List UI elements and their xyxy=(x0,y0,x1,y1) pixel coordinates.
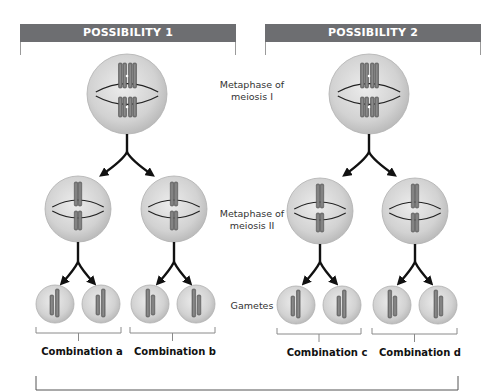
cell-membrane xyxy=(87,54,167,134)
arrow-branch-right xyxy=(320,262,335,282)
brackets-layer xyxy=(36,327,458,390)
diagram-canvas xyxy=(0,0,499,391)
gamete-c2 xyxy=(323,286,361,324)
metaphase-meiosis-2-line1: Metaphase of xyxy=(212,208,292,220)
combination-a-bracket xyxy=(36,327,121,341)
possibility-2-metaphase-2-cell-left xyxy=(287,178,353,244)
centromere xyxy=(368,75,371,78)
possibility-1-right-meiosis-2-arrow xyxy=(159,242,189,282)
arrow-branch-right xyxy=(78,262,93,282)
possibility-2-metaphase-2-cell-right xyxy=(382,178,448,244)
possibility-2-header-right-tick xyxy=(480,42,481,55)
centromere xyxy=(126,75,129,78)
cell-membrane xyxy=(323,286,361,324)
gamete-d1 xyxy=(373,286,411,324)
gamete-b1 xyxy=(131,285,169,323)
gametes-label: Gametes xyxy=(212,300,292,312)
metaphase-meiosis-1-line2: meiosis I xyxy=(212,91,292,103)
possibility-1-left-meiosis-2-arrow xyxy=(63,242,93,282)
cell-membrane xyxy=(82,285,120,323)
metaphase-meiosis-1-line1: Metaphase of xyxy=(212,79,292,91)
overall-bracket xyxy=(36,376,458,390)
bracket-line xyxy=(36,327,121,333)
arrow-branch-left xyxy=(63,262,78,282)
possibility-1-header-right-tick xyxy=(235,42,236,55)
possibility-2-meiosis-1-arrow xyxy=(346,134,393,174)
overall-bracket-line xyxy=(36,376,458,390)
arrow-branch-right xyxy=(369,152,393,174)
combination-b-label: Combination b xyxy=(130,346,220,357)
possibility-1-meiosis-1-arrow xyxy=(103,134,151,174)
arrow-branch-left xyxy=(305,262,320,282)
meiosis-diagram: POSSIBILITY 1 POSSIBILITY 2 Metaphase of… xyxy=(0,0,499,391)
centromere xyxy=(126,106,129,109)
centromere xyxy=(368,106,371,109)
possibility-2-right-meiosis-2-arrow xyxy=(400,244,430,282)
possibility-2-metaphase-1-cell xyxy=(329,54,409,134)
arrow-branch-right xyxy=(174,262,189,282)
bracket-line xyxy=(372,328,457,334)
arrow-branch-right xyxy=(415,262,430,282)
cell-membrane xyxy=(131,285,169,323)
cell-membrane xyxy=(36,285,74,323)
combination-d-label: Combination d xyxy=(375,347,465,358)
bracket-line xyxy=(130,327,215,333)
combination-c-label: Combination c xyxy=(282,347,372,358)
cell-membrane xyxy=(373,286,411,324)
gamete-d2 xyxy=(419,286,457,324)
arrow-branch-right xyxy=(127,152,151,174)
arrow-branch-left xyxy=(400,262,415,282)
cell-membrane xyxy=(329,54,409,134)
combination-d-bracket xyxy=(372,328,457,342)
combination-b-bracket xyxy=(130,327,215,341)
possibility-1-header: POSSIBILITY 1 xyxy=(20,24,236,42)
arrow-branch-left xyxy=(103,152,127,174)
possibility-2-header: POSSIBILITY 2 xyxy=(265,24,481,42)
bracket-line xyxy=(277,328,361,334)
gamete-b2 xyxy=(177,285,215,323)
possibility-1-metaphase-2-cell-left xyxy=(45,176,111,242)
metaphase-meiosis-2-label: Metaphase of meiosis II xyxy=(212,208,292,232)
gamete-a1 xyxy=(36,285,74,323)
combination-c-bracket xyxy=(277,328,361,342)
possibility-1-metaphase-2-cell-right xyxy=(141,176,207,242)
metaphase-meiosis-1-label: Metaphase of meiosis I xyxy=(212,79,292,103)
possibility-2-left-meiosis-2-arrow xyxy=(305,244,335,282)
gamete-a2 xyxy=(82,285,120,323)
metaphase-meiosis-2-line2: meiosis II xyxy=(212,220,292,232)
combination-a-label: Combination a xyxy=(37,346,127,357)
arrow-branch-left xyxy=(346,152,369,174)
possibility-1-metaphase-1-cell xyxy=(87,54,167,134)
arrow-branch-left xyxy=(159,262,174,282)
cell-membrane xyxy=(419,286,457,324)
possibility-2-header-left-tick xyxy=(265,42,266,55)
possibility-1-header-left-tick xyxy=(20,42,21,55)
cell-membrane xyxy=(177,285,215,323)
